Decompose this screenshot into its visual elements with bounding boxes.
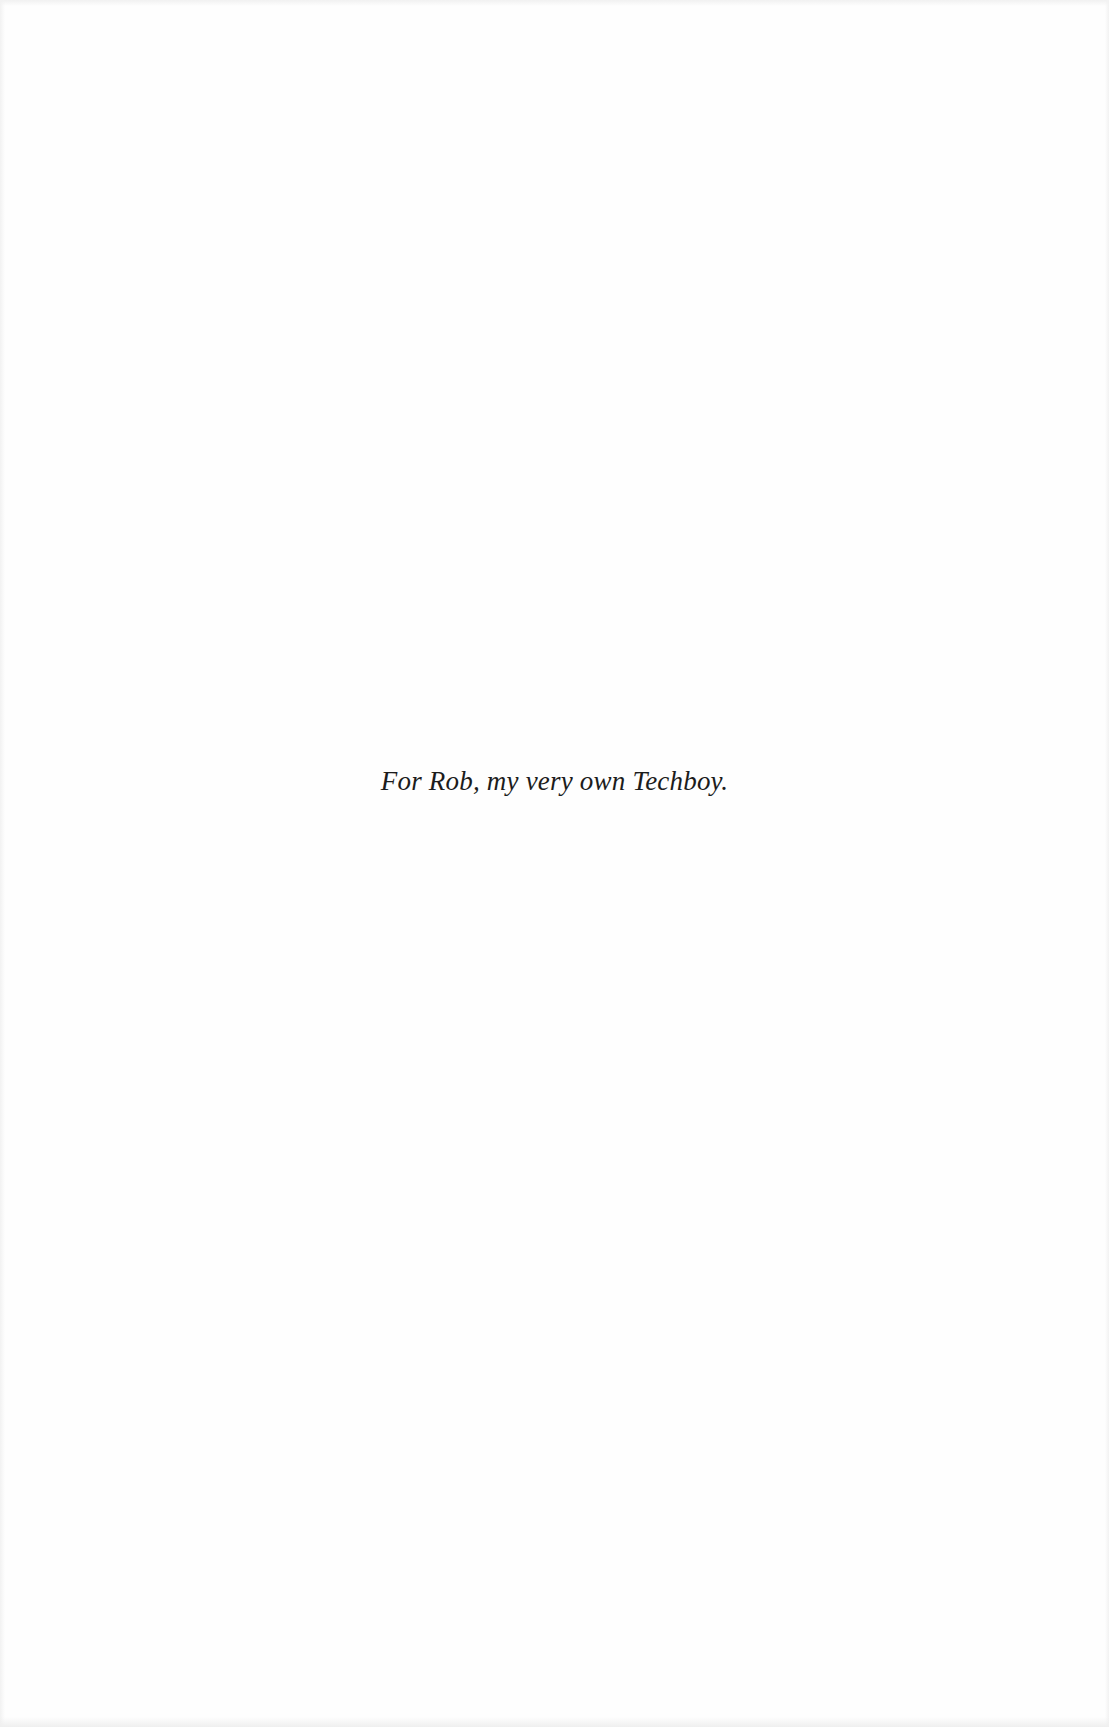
page-edge-right (1105, 0, 1109, 1727)
dedication-text: For Rob, my very own Techboy. (0, 763, 1109, 799)
page-edge-bottom (0, 1717, 1109, 1727)
page-edge-top (0, 0, 1109, 6)
book-page: For Rob, my very own Techboy. (0, 0, 1109, 1727)
page-edge-left (0, 0, 5, 1727)
